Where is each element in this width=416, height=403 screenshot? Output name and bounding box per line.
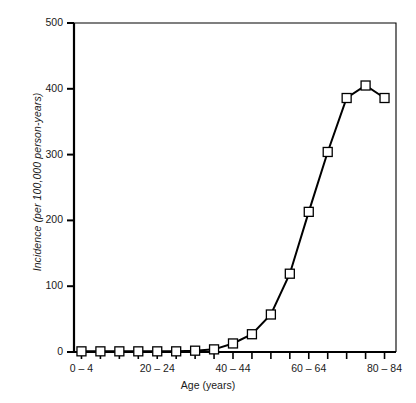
y-axis-tick-label: 0: [29, 346, 63, 356]
data-point-marker: [266, 310, 275, 319]
y-axis-tick-label: 200: [29, 214, 63, 224]
y-axis-tick-label: 100: [29, 280, 63, 290]
x-axis-tick-label: 20 – 24: [117, 363, 197, 374]
data-point-marker: [191, 346, 200, 355]
data-point-marker: [229, 339, 238, 348]
x-axis-tick-label: 0 – 4: [41, 363, 121, 374]
chart-plot-area: [0, 0, 416, 403]
x-axis-tick-label: 80 – 84: [345, 363, 416, 374]
data-point-marker: [304, 207, 313, 216]
data-point-marker: [342, 94, 351, 103]
x-axis-tick-label: 40 – 44: [193, 363, 273, 374]
data-point-marker: [361, 81, 370, 90]
y-axis-tick-label: 500: [29, 17, 63, 27]
data-point-marker: [134, 347, 143, 356]
data-point-marker: [247, 330, 256, 339]
x-axis-tick-label: 60 – 64: [269, 363, 349, 374]
data-line-series: [81, 86, 384, 352]
y-axis-tick-label: 300: [29, 149, 63, 159]
chart-axes: [74, 23, 396, 352]
data-point-marker: [380, 94, 389, 103]
data-point-marker: [323, 147, 332, 156]
data-point-marker: [77, 347, 86, 356]
y-axis-tick-label: 400: [29, 83, 63, 93]
data-point-marker: [115, 347, 124, 356]
data-point-marker: [285, 269, 294, 278]
data-point-marker: [172, 347, 181, 356]
y-axis-title: Incidence (per 100,000 person-years): [28, 12, 46, 352]
data-point-markers: [77, 81, 389, 356]
chart-figure: Incidence (per 100,000 person-years) Age…: [0, 0, 416, 403]
data-point-marker: [210, 345, 219, 354]
data-point-marker: [96, 347, 105, 356]
data-point-marker: [153, 347, 162, 356]
x-axis-title: Age (years): [0, 379, 416, 391]
